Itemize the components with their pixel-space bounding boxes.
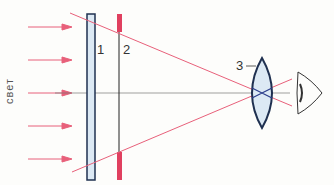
- light-label: свет: [3, 78, 15, 104]
- aperture-2-top: [117, 14, 122, 32]
- label-aperture-2: 2: [123, 42, 130, 57]
- label-plate-1: 1: [97, 42, 104, 57]
- aperture-2-bottom: [117, 152, 122, 180]
- optical-diagram: 1 2 3 свет: [0, 0, 334, 185]
- eye-icon: [297, 72, 322, 114]
- label-lens-3: 3: [236, 58, 243, 73]
- plate-1: [87, 14, 95, 180]
- diagram-svg: [0, 0, 334, 185]
